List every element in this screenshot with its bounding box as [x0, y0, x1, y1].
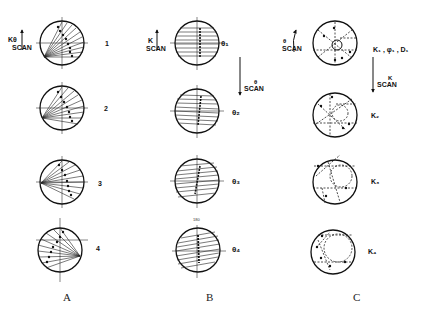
circle-c4: K₄	[311, 230, 376, 274]
circle-a2: 2	[36, 82, 108, 134]
row-label: θ₂	[232, 108, 240, 117]
row-label: K₁ , φ₁ , D₁	[373, 46, 409, 54]
row-label: θ₃	[232, 177, 240, 186]
scan-label-bottom: SCAN	[282, 45, 302, 52]
column-c: θ SCAN K₁ , φ₁ , D₁ K SCAN	[282, 21, 409, 303]
vertical-scan-label-bottom: SCAN	[377, 81, 397, 88]
column-label: C	[353, 291, 360, 303]
circle-b2: θ₂	[170, 85, 240, 138]
column-label: A	[63, 291, 71, 303]
circle-c3: K₃	[313, 155, 379, 204]
column-a: Kθ SCAN 1	[8, 17, 109, 303]
vertical-scan-label-bottom: SCAN	[244, 85, 264, 92]
circle-c2: K₂	[313, 93, 379, 137]
circle-a3: 3	[36, 156, 102, 208]
row-label: K₃	[371, 178, 379, 185]
theta-scan-indicator: θ SCAN	[240, 57, 264, 95]
column-b: K SCAN θ₁ θ SCAN	[146, 17, 264, 303]
circle-a4: 4	[36, 218, 100, 282]
top-tick-label: 180	[193, 217, 200, 222]
row-label: θ₄	[232, 245, 240, 254]
circle-b3: θ₃	[170, 155, 240, 208]
circle-a1: 1	[36, 17, 109, 69]
scan-label-bottom: SCAN	[12, 44, 32, 51]
k-theta-scan-indicator: Kθ SCAN	[8, 30, 32, 51]
scan-label-top: θ	[283, 38, 286, 44]
circle-c1: K₁ , φ₁ , D₁	[313, 21, 409, 65]
diagram-canvas: Kθ SCAN 1	[0, 0, 421, 313]
row-label: 2	[104, 105, 108, 112]
row-label: θ₁	[221, 39, 229, 48]
theta-scan-indicator-c: θ SCAN	[282, 30, 302, 52]
circle-b1: θ₁	[170, 17, 229, 70]
scan-label-bottom: SCAN	[146, 45, 166, 52]
k-scan-indicator-c: K SCAN	[373, 57, 397, 92]
scan-label-top: K	[148, 37, 153, 44]
circle-b4: 180 θ₄	[172, 217, 240, 278]
row-label: 4	[96, 245, 100, 252]
k-scan-indicator: K SCAN	[146, 30, 166, 52]
row-label: K₄	[368, 248, 376, 255]
row-label: 1	[105, 40, 109, 47]
row-label: 3	[98, 180, 102, 187]
row-label: K₂	[371, 112, 379, 119]
scan-label-top: Kθ	[8, 36, 17, 43]
column-label: B	[206, 291, 213, 303]
